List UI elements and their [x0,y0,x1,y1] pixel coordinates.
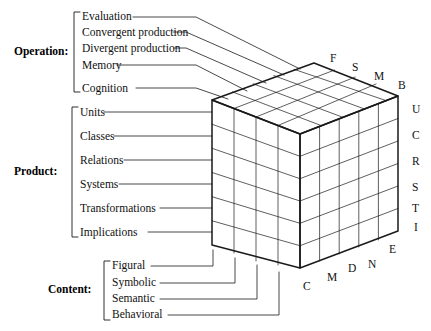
operation-item-evaluation: Evaluation [82,11,132,23]
axis-letter-bottom-memory: M [327,272,337,284]
product-item-transformations: Transformations [80,203,156,215]
soi-diagram: Operation: Evaluation Convergent product… [0,0,431,331]
content-bracket [104,261,110,320]
content-category-label: Content: [48,284,91,296]
axis-letter-bottom-cognition: C [303,281,311,293]
axis-letter-bottom-convergent: N [368,259,376,271]
front-face-grid [212,109,300,266]
axis-letter-top-figural: F [330,53,336,65]
content-item-figural: Figural [112,260,145,272]
operation-item-convergent-production: Convergent production [82,27,188,39]
axis-letter-top-semantic: M [374,71,384,83]
axis-letter-right-units: U [412,104,420,116]
product-item-units: Units [80,107,105,119]
operation-bracket [74,12,80,92]
product-item-systems: Systems [80,179,118,191]
right-face-grid [300,104,398,261]
operation-category-label: Operation: [14,46,68,58]
content-leader-lines [151,250,279,315]
product-category-label: Product: [14,166,57,178]
axis-letter-right-transformations: T [412,203,419,215]
content-item-symbolic: Symbolic [112,277,156,289]
top-face-outline [212,63,398,134]
operation-item-divergent-production: Divergent production [82,43,180,55]
content-item-semantic: Semantic [112,293,155,305]
axis-letter-bottom-divergent: D [348,263,356,275]
axis-letter-top-symbolic: S [352,62,358,74]
axis-letter-right-classes: C [412,130,420,142]
product-bracket [72,107,78,237]
product-item-classes: Classes [80,131,115,143]
operation-item-cognition: Cognition [82,83,128,95]
product-item-relations: Relations [80,155,123,167]
axis-letter-right-relations: R [412,156,420,168]
axis-letter-bottom-evaluation: E [389,244,396,256]
axis-letter-right-systems: S [412,182,418,194]
product-item-implications: Implications [80,227,138,239]
operation-item-memory: Memory [82,60,122,72]
axis-letter-top-behavioral: B [398,80,406,92]
content-item-behavioral: Behavioral [112,309,162,321]
axis-letter-right-implications: I [414,222,418,234]
